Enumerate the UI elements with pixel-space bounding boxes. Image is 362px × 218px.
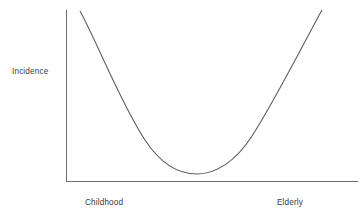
- incidence-age-curve-chart: [0, 0, 362, 218]
- y-axis-label: Incidence: [12, 67, 48, 77]
- x-axis-label-elderly: Elderly: [277, 198, 303, 208]
- incidence-u-curve: [80, 10, 322, 174]
- chart-figure: Incidence Childhood Elderly: [0, 0, 362, 218]
- x-axis-label-childhood: Childhood: [85, 198, 123, 208]
